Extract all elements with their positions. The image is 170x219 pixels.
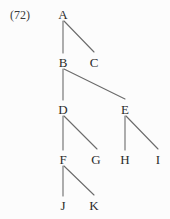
tree-edge-f-k bbox=[64, 166, 94, 195]
tree-edge-a-c bbox=[64, 21, 94, 52]
tree-node-e: E bbox=[121, 103, 129, 116]
tree-edge-e-i bbox=[126, 116, 158, 149]
tree-edge-b-e bbox=[64, 69, 125, 99]
tree-edge-d-g bbox=[64, 116, 97, 149]
tree-node-g: G bbox=[91, 153, 100, 166]
tree-node-b: B bbox=[59, 56, 68, 69]
tree-node-k: K bbox=[89, 199, 98, 212]
tree-node-c: C bbox=[90, 56, 99, 69]
tree-node-a: A bbox=[58, 8, 67, 21]
tree-diagram-figure: (72) ABCDEFGHIJK bbox=[0, 0, 170, 219]
tree-node-d: D bbox=[58, 103, 67, 116]
tree-node-i: I bbox=[156, 153, 160, 166]
tree-node-f: F bbox=[59, 153, 66, 166]
tree-node-j: J bbox=[60, 199, 65, 212]
tree-node-h: H bbox=[120, 153, 129, 166]
tree-edge-layer bbox=[0, 0, 170, 219]
